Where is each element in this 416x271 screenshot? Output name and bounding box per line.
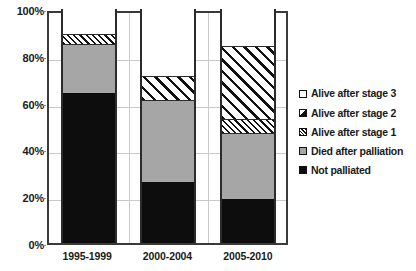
plot-area <box>47 11 288 245</box>
y-axis-tick-label: 100% <box>4 5 44 17</box>
legend-item-alive-after-stage-3: Alive after stage 3 <box>299 84 416 103</box>
wide-hatch-square-icon <box>299 109 307 117</box>
y-axis-tick-mark <box>41 105 46 106</box>
legend-item-alive-after-stage-2: Alive after stage 2 <box>299 103 416 122</box>
gray-square-icon <box>299 147 307 155</box>
vertical-gridline <box>129 13 130 243</box>
vertical-gridline <box>208 13 209 243</box>
y-axis-tick-mark <box>41 198 46 199</box>
segment-died-after-palliation <box>63 44 115 93</box>
bar-2000-2004 <box>140 9 196 243</box>
segment-alive-after-stage-1 <box>63 34 115 45</box>
segment-alive-after-stage-3 <box>63 9 115 34</box>
segment-alive-after-stage-3 <box>222 9 274 46</box>
segment-not-palliated <box>142 182 194 243</box>
stacked-bar-chart: 100% 80% 60% 40% 20% 0% <box>0 0 416 271</box>
y-axis-tick-label: 80% <box>4 52 44 64</box>
segment-alive-after-stage-2 <box>222 46 274 119</box>
x-axis-label-2005-2010: 2005-2010 <box>208 250 288 262</box>
y-axis: 100% 80% 60% 40% 20% 0% <box>0 0 44 271</box>
legend-label: Died after palliation <box>311 146 403 157</box>
y-axis-tick-mark <box>41 11 46 12</box>
y-axis-tick-mark <box>41 245 46 246</box>
y-axis-tick-label: 20% <box>4 192 44 204</box>
y-axis-tick-label: 0% <box>4 239 44 251</box>
fine-hatch-square-icon <box>299 128 307 136</box>
white-square-icon <box>299 90 307 98</box>
bar-2005-2010 <box>220 9 276 243</box>
legend-label: Alive after stage 1 <box>311 127 396 138</box>
segment-alive-after-stage-1 <box>222 119 274 133</box>
legend-label: Not palliated <box>311 165 371 176</box>
legend-label: Alive after stage 2 <box>311 108 396 119</box>
legend-item-not-palliated: Not palliated <box>299 161 416 180</box>
bar-1995-1999 <box>61 9 117 243</box>
legend-label: Alive after stage 3 <box>311 88 396 99</box>
y-axis-tick-label: 60% <box>4 99 44 111</box>
y-axis-tick-mark <box>41 151 46 152</box>
segment-alive-after-stage-2 <box>142 76 194 101</box>
y-axis-tick-label: 40% <box>4 145 44 157</box>
x-axis-label-1995-1999: 1995-1999 <box>47 250 127 262</box>
segment-died-after-palliation <box>222 133 274 199</box>
legend: Alive after stage 3 Alive after stage 2 … <box>299 84 416 180</box>
segment-died-after-palliation <box>142 100 194 182</box>
segment-alive-after-stage-3 <box>142 9 194 76</box>
segment-not-palliated <box>63 93 115 243</box>
legend-item-died-after-palliation: Died after palliation <box>299 142 416 161</box>
segment-not-palliated <box>222 199 274 244</box>
y-axis-tick-mark <box>41 58 46 59</box>
black-square-icon <box>299 166 307 174</box>
x-axis-label-2000-2004: 2000-2004 <box>127 250 207 262</box>
legend-item-alive-after-stage-1: Alive after stage 1 <box>299 122 416 141</box>
